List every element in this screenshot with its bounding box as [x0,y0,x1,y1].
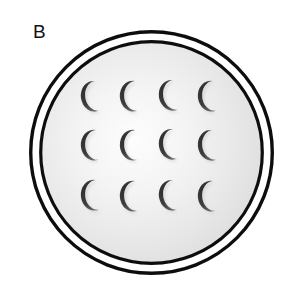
figure-panel: B [0,0,297,287]
petri-dish-illustration [0,0,297,287]
